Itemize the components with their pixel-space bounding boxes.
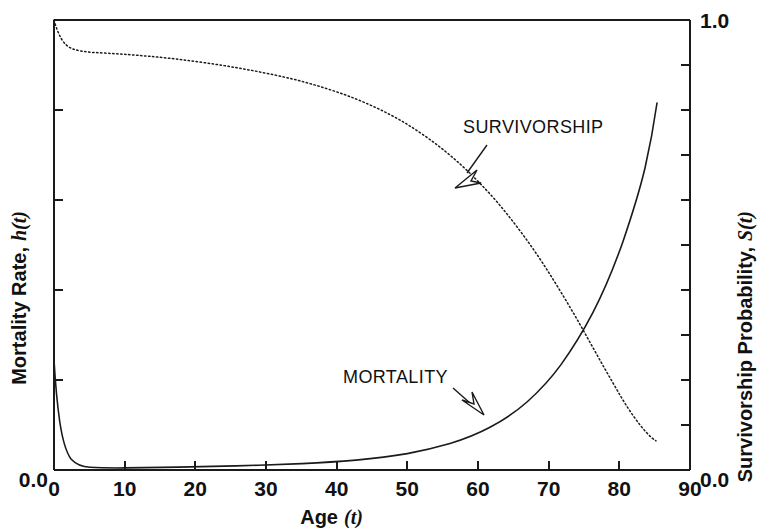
x-axis-title: Age (t) [300,506,363,528]
y-right-axis-title-var: S(t) [734,211,757,241]
y-left-zero-label: 0.0 [19,468,48,491]
y-left-axis-title-main: Mortality Rate, [8,247,30,385]
x-tick-label: 20 [184,477,207,500]
annotation-mortality-arrowhead [462,392,484,415]
x-tick-label: 60 [466,477,489,500]
x-tick-label: 30 [254,477,277,500]
annotation-mortality-label: MORTALITY [343,367,448,387]
y-right-axis-ticks [681,65,690,425]
figure-mortality-survivorship: SURVIVORSHIP MORTALITY 0 10 20 30 40 50 … [0,0,764,528]
annotation-survivorship: SURVIVORSHIP [455,117,604,188]
x-tick-label: 80 [608,477,631,500]
x-tick-label: 50 [396,477,419,500]
x-tick-label: 90 [678,477,701,500]
annotation-mortality-leader [453,388,470,403]
y-left-axis-ticks [54,110,63,380]
y-left-axis-title: Mortality Rate, h(t) [8,211,31,385]
y-right-axis-title-main: Survivorship Probability, [734,247,756,482]
chart-canvas: SURVIVORSHIP MORTALITY 0 10 20 30 40 50 … [0,0,764,528]
x-tick-label: 70 [537,477,560,500]
x-axis-title-var: (t) [344,506,363,528]
x-axis-title-main: Age [300,506,338,528]
y-right-bottom-label: 0.0 [700,468,729,491]
y-right-axis-title: Survivorship Probability, S(t) [734,211,757,482]
y-left-axis-title-var: h(t) [8,211,31,241]
x-axis-ticks [54,461,690,470]
annotation-survivorship-leader [467,145,487,173]
series-mortality-curve [54,103,657,468]
y-right-top-label: 1.0 [700,9,729,32]
x-tick-label: 10 [113,477,136,500]
annotation-survivorship-label: SURVIVORSHIP [463,117,604,137]
x-tick-labels: 0 10 20 30 40 50 60 70 80 90 [48,477,702,500]
x-tick-label: 0 [48,477,60,500]
annotation-mortality: MORTALITY [343,367,484,415]
plot-frame [54,20,690,470]
x-tick-label: 40 [325,477,348,500]
